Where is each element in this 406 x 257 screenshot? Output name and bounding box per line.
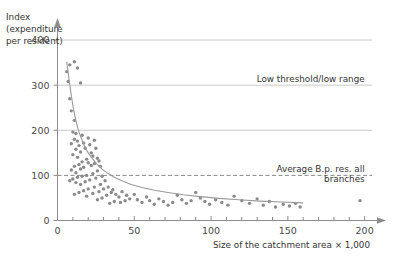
data-point	[111, 188, 114, 191]
data-point	[162, 200, 165, 203]
data-point	[79, 150, 82, 153]
data-point	[77, 144, 80, 147]
data-point	[145, 195, 148, 198]
data-point	[105, 194, 108, 197]
data-point	[77, 191, 80, 194]
data-point	[74, 181, 77, 184]
data-point	[88, 143, 91, 146]
y-tick-label-300: 300	[31, 80, 49, 91]
data-point	[73, 60, 76, 63]
data-point	[70, 168, 73, 171]
annotation-low-threshold: Low threshold/low range	[257, 74, 365, 84]
data-point	[288, 204, 291, 207]
x-axis-title: Size of the catchment area × 1,000	[213, 240, 370, 250]
data-point	[140, 201, 143, 204]
data-point	[70, 109, 73, 112]
data-point	[153, 203, 156, 206]
data-point	[274, 205, 277, 208]
data-point	[282, 203, 285, 206]
data-point	[71, 177, 74, 180]
data-point	[96, 169, 99, 172]
data-point	[90, 151, 93, 154]
y-tick-label-100: 100	[31, 170, 49, 181]
data-point	[79, 81, 82, 84]
data-point	[108, 202, 111, 205]
data-point	[100, 196, 103, 199]
data-point	[255, 197, 258, 200]
data-point	[185, 202, 188, 205]
data-point	[100, 175, 103, 178]
x-tick-label-100: 100	[202, 225, 220, 236]
data-point	[97, 190, 100, 193]
data-point	[114, 193, 117, 196]
data-point	[93, 139, 96, 142]
data-point	[82, 166, 85, 169]
data-point	[74, 148, 77, 151]
x-tick-label-150: 150	[279, 225, 297, 236]
data-point	[248, 202, 251, 205]
chart-canvas: 0100200300400 050100150200 Low threshold…	[0, 0, 406, 257]
data-point	[85, 157, 88, 160]
data-point	[73, 193, 76, 196]
data-point	[358, 199, 361, 202]
data-point	[103, 179, 106, 182]
data-point	[73, 165, 76, 168]
y-axis-title-line-0: Index	[6, 12, 30, 22]
data-point	[157, 197, 160, 200]
data-point	[119, 201, 122, 204]
data-point	[106, 185, 109, 188]
data-point	[232, 194, 235, 197]
data-point	[90, 164, 93, 167]
y-axis-title-line-2: per resident)	[6, 36, 63, 46]
data-point	[70, 142, 73, 145]
data-point	[73, 138, 76, 141]
data-point	[76, 175, 79, 178]
data-point	[123, 199, 126, 202]
data-point	[194, 191, 197, 194]
data-point	[208, 203, 211, 206]
y-axis-title-line-1: (expenditure	[6, 24, 62, 34]
data-point	[96, 198, 99, 201]
data-point	[79, 167, 82, 170]
data-point	[97, 159, 100, 162]
data-point	[68, 179, 71, 182]
data-point	[83, 180, 86, 183]
data-point	[74, 132, 77, 135]
data-point	[80, 175, 83, 178]
data-point	[91, 192, 94, 195]
data-point	[68, 63, 71, 66]
data-point	[87, 187, 90, 190]
data-point	[94, 147, 97, 150]
scatter-chart: 0100200300400 050100150200 Low threshold…	[0, 0, 406, 257]
data-point	[79, 183, 82, 186]
data-point	[76, 66, 79, 69]
x-tick-label-50: 50	[128, 225, 140, 236]
data-point	[203, 200, 206, 203]
data-point	[125, 194, 128, 197]
data-point	[85, 194, 88, 197]
data-point	[117, 195, 120, 198]
data-point	[71, 130, 74, 133]
data-point	[166, 203, 169, 206]
data-point	[120, 190, 123, 193]
x-tick-label-200: 200	[356, 225, 374, 236]
data-point	[99, 183, 102, 186]
data-point	[298, 205, 301, 208]
data-point	[102, 187, 105, 190]
data-point	[91, 172, 94, 175]
data-point	[226, 203, 229, 206]
data-point	[82, 189, 85, 192]
x-axis-arrow	[377, 217, 386, 223]
data-point	[74, 171, 77, 174]
annotations-group: Low threshold/low rangeAverage B.p. res.…	[257, 74, 365, 185]
data-point	[180, 198, 183, 201]
data-point	[87, 136, 90, 139]
data-point	[76, 156, 79, 159]
data-point	[128, 197, 131, 200]
y-axis: 0100200300400	[31, 18, 60, 226]
y-tick-label-0: 0	[43, 215, 49, 226]
data-point	[133, 193, 136, 196]
y-tick-label-200: 200	[31, 125, 49, 136]
x-axis: 050100150200	[54, 216, 386, 236]
annotation-average-bp: branches	[324, 174, 365, 184]
